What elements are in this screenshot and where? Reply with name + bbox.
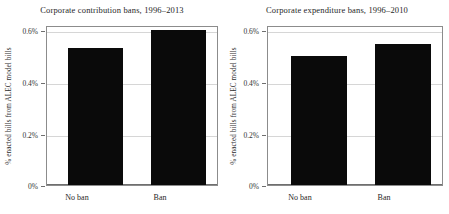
ytick-label-0.6-right: 0.6% (233, 27, 259, 36)
plot-area-left (46, 26, 218, 186)
y-axis-title-left: % enacted bills from ALEC model bills (3, 26, 15, 186)
bar-no-ban-left (68, 48, 123, 185)
ytick-mark-0.4-right (262, 83, 266, 84)
bar-no-ban-right (291, 56, 347, 185)
ytick-label-0.2-left: 0.2% (12, 131, 38, 140)
ytick-mark-0-right (262, 186, 266, 187)
ytick-label-0.4-right: 0.4% (233, 79, 259, 88)
panel-corporate-contribution-bans: Corporate contribution bans, 1996–2013 %… (0, 0, 224, 214)
panel-corporate-expenditure-bans: Corporate expenditure bans, 1996–2010 % … (225, 0, 449, 214)
ytick-label-0-left: 0% (12, 182, 38, 191)
xtick-label-no-ban-left: No ban (42, 193, 112, 202)
ytick-label-0.2-right: 0.2% (233, 131, 259, 140)
ytick-label-0.4-left: 0.4% (12, 79, 38, 88)
gridline-0.6-right (268, 32, 442, 33)
figure-two-panel-bar-charts: Corporate contribution bans, 1996–2013 %… (0, 0, 449, 214)
ytick-mark-0.2-right (262, 135, 266, 136)
ytick-mark-0.6-left (41, 31, 45, 32)
ytick-mark-0.4-left (41, 83, 45, 84)
panel-title-left: Corporate contribution bans, 1996–2013 (0, 5, 224, 15)
ytick-mark-0-left (41, 186, 45, 187)
ytick-label-0.6-left: 0.6% (12, 27, 38, 36)
y-axis-title-right: % enacted bills from ALEC model bills (228, 26, 240, 186)
ytick-mark-0.6-right (262, 31, 266, 32)
bar-ban-right (375, 44, 431, 185)
panel-title-right: Corporate expenditure bans, 1996–2010 (225, 5, 449, 15)
y-axis-title-left-text: % enacted bills from ALEC model bills (5, 47, 13, 164)
plot-area-right (267, 26, 443, 186)
xtick-label-ban-right: Ban (349, 193, 419, 202)
xtick-label-ban-left: Ban (125, 193, 195, 202)
xtick-label-no-ban-right: No ban (265, 193, 335, 202)
y-axis-title-right-text: % enacted bills from ALEC model bills (230, 47, 238, 164)
ytick-mark-0.2-left (41, 135, 45, 136)
ytick-label-0-right: 0% (233, 182, 259, 191)
bar-ban-left (151, 30, 206, 185)
